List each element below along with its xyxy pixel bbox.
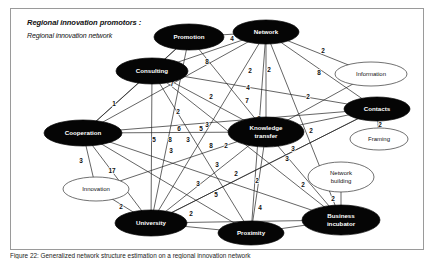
edge-weight-label: 2 bbox=[321, 47, 325, 54]
edge-weight-label: 2 bbox=[209, 93, 213, 100]
edge-weight-label: 2 bbox=[119, 203, 123, 210]
edge-weight-label: 3 bbox=[196, 180, 200, 187]
edge-weight-label: 8 bbox=[317, 69, 321, 76]
edge-weight-label: 2 bbox=[255, 177, 259, 184]
edge-weight-label: 5 bbox=[214, 191, 218, 198]
edge-weight-label: 4 bbox=[230, 35, 234, 42]
graph-edge bbox=[152, 71, 341, 220]
edge-weight-label: 2 bbox=[267, 66, 271, 73]
edge-weight-label: 2 bbox=[234, 170, 238, 177]
graph-node-information[interactable]: Information bbox=[335, 62, 407, 86]
node-label: Information bbox=[356, 71, 386, 77]
graph-node-contacts[interactable]: Contacts bbox=[344, 97, 410, 121]
edge-weight-label: 3 bbox=[285, 155, 289, 162]
edge-weight-label: 2 bbox=[189, 210, 193, 217]
edge-weight-label: 2 bbox=[224, 142, 228, 149]
edge-weight-label: 6 bbox=[177, 125, 181, 132]
edge-weight-label: 3 bbox=[79, 157, 83, 164]
edge-weight-label: 5 bbox=[199, 125, 203, 132]
edge-weight-label: 4 bbox=[258, 204, 262, 211]
edge-weight-label: 3 bbox=[169, 147, 173, 154]
edge-weight-label: 1 bbox=[112, 100, 116, 107]
node-label: Network bbox=[254, 28, 279, 35]
node-label: Promotion bbox=[174, 33, 205, 40]
edge-weight-label: 3 bbox=[291, 145, 295, 152]
edge-weight-label: 2 bbox=[176, 108, 180, 115]
node-label: Innovation bbox=[82, 186, 110, 192]
edge-weight-label: 17 bbox=[108, 167, 116, 174]
graph-node-knowledge_transfer[interactable]: Knowledgetransfer bbox=[228, 117, 304, 147]
node-label: University bbox=[136, 219, 166, 226]
edge-weight-label: 8 bbox=[209, 142, 213, 149]
node-label: Contacts bbox=[364, 105, 391, 112]
edge-weight-label: 2 bbox=[309, 127, 313, 134]
edge-weight-label: 2 bbox=[301, 181, 305, 188]
edge-weight-label: 5 bbox=[152, 136, 156, 143]
edge-weight-label: 4 bbox=[246, 84, 250, 91]
edge-weight-label: 3 bbox=[186, 136, 190, 143]
figure-caption: Figure 22: Generalized network structure… bbox=[10, 252, 430, 259]
graph-node-consulting[interactable]: Consulting bbox=[116, 58, 188, 84]
edge-weight-label: 8 bbox=[205, 58, 209, 65]
node-label: Framing bbox=[368, 136, 390, 142]
graph-node-business_incubator[interactable]: Businessincubator bbox=[302, 205, 380, 235]
graph-node-innovation[interactable]: Innovation bbox=[63, 177, 129, 201]
graph-node-network[interactable]: Network bbox=[233, 20, 299, 44]
graph-node-framing[interactable]: Framing bbox=[350, 128, 408, 150]
graph-node-proximity[interactable]: Proximity bbox=[218, 221, 284, 245]
edge-weight-label: 2 bbox=[306, 93, 310, 100]
edge-weight-label: 8 bbox=[168, 136, 172, 143]
edge-weight-label: 2 bbox=[378, 121, 382, 128]
edge-weight-label: 2 bbox=[331, 195, 335, 202]
node-label: Cooperation bbox=[65, 129, 102, 136]
graph-node-network_building[interactable]: Networkbuilding bbox=[308, 162, 374, 192]
graph-node-cooperation[interactable]: Cooperation bbox=[44, 120, 122, 146]
edge-weight-label: 2 bbox=[248, 67, 252, 74]
edge-weight-label: 7 bbox=[245, 97, 249, 104]
graph-edge bbox=[151, 71, 152, 223]
figure-container: Regional innovation promotors : Regional… bbox=[0, 0, 438, 262]
node-label: Proximity bbox=[237, 229, 266, 236]
edge-weight-label: 3 bbox=[215, 161, 219, 168]
node-label: Consulting bbox=[136, 67, 169, 74]
edge-weight-label: 3 bbox=[205, 121, 209, 128]
network-graph: 4832282947321722222233176553883232222543… bbox=[11, 9, 423, 249]
diagram-frame: Regional innovation promotors : Regional… bbox=[10, 8, 424, 250]
graph-node-promotion[interactable]: Promotion bbox=[154, 24, 224, 50]
graph-node-university[interactable]: University bbox=[115, 210, 187, 236]
node-label: Businessincubator bbox=[327, 212, 356, 227]
